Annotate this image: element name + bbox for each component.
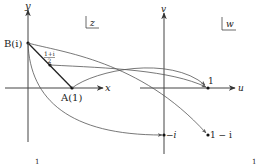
curve-midpoint-to-one [50, 65, 206, 87]
v-axis-label: v [161, 4, 166, 14]
u-axis-label: u [238, 83, 244, 93]
mapping-diagram: y x z B(i) 1+i 2 A(1) 1 v u w 1 −i 1 − i… [0, 0, 256, 164]
point-a-label: A(1) [60, 92, 82, 103]
z-plane: y x z B(i) 1+i 2 A(1) 1 [4, 0, 111, 164]
w-tick-label: 1 [252, 158, 256, 164]
point-one-label: 1 [208, 76, 214, 86]
point-b-label: B(i) [4, 38, 22, 49]
y-axis-label: y [24, 0, 31, 11]
point-one [206, 86, 209, 89]
point-one-minus-i-label: 1 − i [210, 130, 232, 140]
x-axis-label: x [105, 82, 111, 93]
z-tick-label: 1 [35, 158, 39, 164]
z-plane-label: z [89, 18, 95, 28]
w-plane-label: w [226, 19, 234, 29]
point-midpoint-denominator: 2 [48, 57, 52, 64]
point-minus-i-label: −i [166, 130, 177, 140]
point-midpoint-numerator: 1+i [44, 50, 55, 57]
